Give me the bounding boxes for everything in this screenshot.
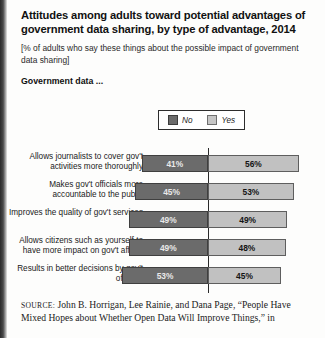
bar-segment-yes[interactable]: 48% <box>208 239 286 256</box>
source-label: SOURCE: <box>21 301 55 310</box>
bar-group: 41%56% <box>0 152 300 174</box>
table-row: Allows journalists to cover gov't activi… <box>0 152 300 174</box>
bar-group: 53%45% <box>0 264 300 286</box>
legend-label-yes: Yes <box>221 116 235 125</box>
chart-legend: No Yes <box>158 110 245 130</box>
source-text: John B. Horrigan, Lee Rainie, and Dana P… <box>21 299 291 323</box>
chart-page: Attitudes among adults toward potential … <box>0 0 325 338</box>
table-row: Improves the quality of gov't services49… <box>0 208 300 230</box>
table-row: Makes gov't officials more accountable t… <box>0 180 300 202</box>
table-row: Results in better decisions by gov't off… <box>0 264 300 286</box>
source-note: SOURCE: John B. Horrigan, Lee Rainie, an… <box>21 299 317 325</box>
bar-segment-yes[interactable]: 56% <box>208 155 299 172</box>
bar-group: 49%49% <box>0 208 300 230</box>
legend-swatch-no-icon <box>168 115 178 125</box>
bar-segment-yes[interactable]: 49% <box>208 211 287 228</box>
bar-segment-no[interactable]: 45% <box>135 183 208 200</box>
bar-group: 45%53% <box>0 180 300 202</box>
bar-segment-no[interactable]: 53% <box>122 267 208 284</box>
bar-segment-no[interactable]: 49% <box>129 211 208 228</box>
chart-subtitle: [% of adults who say these things about … <box>21 43 311 66</box>
chart-title: Attitudes among adults toward potential … <box>21 8 309 36</box>
table-row: Allows citizens such as yourself to have… <box>0 236 300 258</box>
bar-segment-yes[interactable]: 53% <box>208 183 294 200</box>
bar-group: 49%48% <box>0 236 300 258</box>
bar-segment-no[interactable]: 41% <box>142 155 208 172</box>
legend-swatch-yes-icon <box>207 115 217 125</box>
legend-label-no: No <box>182 116 192 125</box>
bar-segment-no[interactable]: 49% <box>129 239 208 256</box>
chart-plot-area: Allows journalists to cover gov't activi… <box>0 148 300 293</box>
legend-item-no[interactable]: No <box>168 115 192 125</box>
bar-segment-yes[interactable]: 45% <box>208 267 281 284</box>
group-label: Government data ... <box>21 76 321 86</box>
legend-item-yes[interactable]: Yes <box>207 115 235 125</box>
